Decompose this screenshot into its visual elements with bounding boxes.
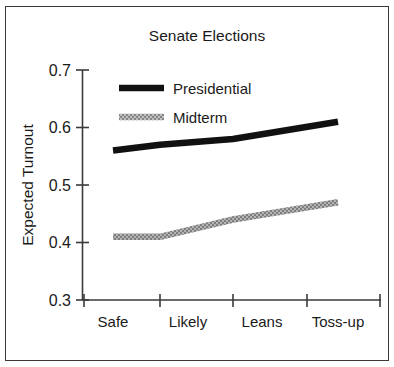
legend-label-presidential: Presidential (173, 80, 251, 97)
x-tick-label-leans: Leans (242, 313, 283, 330)
chart-figure: Senate Elections Expected Turnout 0.7 0.… (0, 0, 394, 367)
y-axis-title: Expected Turnout (19, 124, 36, 246)
y-tick-label-0.7: 0.7 (49, 62, 71, 79)
x-tick-label-tossup: Toss-up (312, 313, 365, 330)
series-line-midterm (113, 202, 338, 237)
x-tick-label-likely: Likely (169, 313, 208, 330)
chart-title: Senate Elections (149, 27, 266, 44)
legend-label-midterm: Midterm (173, 109, 227, 126)
y-tick-label-0.6: 0.6 (49, 119, 71, 136)
y-tick-label-0.5: 0.5 (49, 177, 71, 194)
y-tick-label-0.3: 0.3 (49, 292, 71, 309)
x-tick-label-safe: Safe (98, 313, 129, 330)
series-line-presidential (113, 122, 338, 151)
senate-elections-line-chart: Senate Elections Expected Turnout 0.7 0.… (0, 0, 394, 367)
y-tick-label-0.4: 0.4 (49, 234, 71, 251)
legend: Presidential Midterm (119, 80, 251, 126)
